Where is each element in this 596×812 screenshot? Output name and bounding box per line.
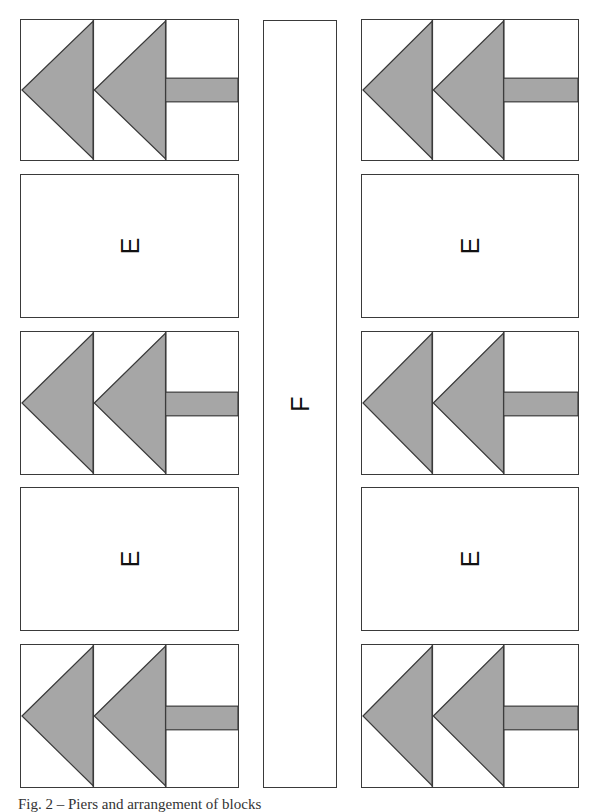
double-chevron-arrow-icon [362, 645, 578, 787]
label-block-e-left-1: E [20, 174, 239, 318]
double-chevron-arrow-icon [21, 20, 238, 160]
block-label: E [458, 551, 483, 568]
label-block-e-right-2: E [361, 487, 579, 631]
column-label: F [288, 396, 313, 411]
figure-caption: Fig. 2 – Piers and arrangement of blocks [18, 797, 261, 812]
arrow-block-right-3 [361, 644, 579, 788]
double-chevron-arrow-icon [21, 645, 238, 787]
center-column-f: F [263, 20, 337, 788]
label-block-e-right-1: E [361, 174, 579, 318]
block-label: E [117, 238, 142, 255]
double-chevron-arrow-icon [362, 332, 578, 474]
double-chevron-arrow-icon [362, 20, 578, 160]
arrow-block-right-1 [361, 19, 579, 161]
arrow-block-right-2 [361, 331, 579, 475]
block-label: E [117, 551, 142, 568]
double-chevron-arrow-icon [21, 332, 238, 474]
label-block-e-left-2: E [20, 487, 239, 631]
arrow-block-left-2 [20, 331, 239, 475]
arrow-block-left-3 [20, 644, 239, 788]
block-label: E [458, 238, 483, 255]
arrow-block-left-1 [20, 19, 239, 161]
